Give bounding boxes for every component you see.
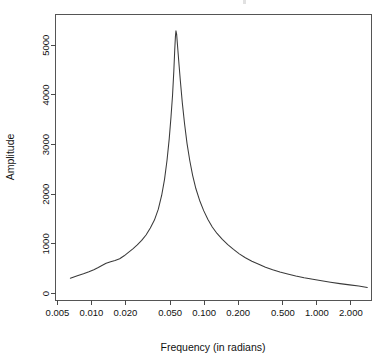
x-tick-label: 0.500: [271, 307, 295, 318]
y-tick-label: 0: [40, 291, 51, 296]
y-tick-label: 2000: [40, 184, 51, 205]
x-axis-tick-labels: 0.0050.0100.0200.0500.1000.2000.5001.000…: [46, 307, 363, 318]
x-tick-label: 0.200: [226, 307, 250, 318]
x-tick-label: 0.010: [80, 307, 104, 318]
x-tick-label: 2.000: [339, 307, 363, 318]
y-tick-label: 4000: [40, 84, 51, 105]
y-tick-label: 5000: [40, 35, 51, 56]
y-tick-label: 1000: [40, 233, 51, 254]
y-tick-label: 3000: [40, 134, 51, 155]
title-remnant-mark: [243, 0, 246, 4]
x-tick-label: 0.020: [113, 307, 137, 318]
x-axis-title: Frequency (in radians): [160, 341, 265, 353]
x-tick-label: 0.100: [192, 307, 216, 318]
x-tick-label: 0.005: [46, 307, 70, 318]
spectrum-chart: 0.0050.0100.0200.0500.1000.2000.5001.000…: [0, 0, 385, 361]
chart-container: 0.0050.0100.0200.0500.1000.2000.5001.000…: [0, 0, 385, 361]
x-tick-label: 1.000: [305, 307, 329, 318]
y-axis-title: Amplitude: [4, 134, 16, 181]
x-tick-label: 0.050: [158, 307, 182, 318]
